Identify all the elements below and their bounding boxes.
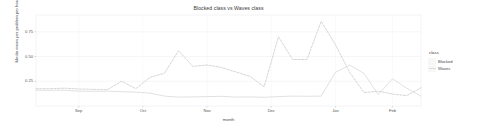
chart-container: Blocked class vs Waves class Media error… [0, 0, 482, 128]
legend-label: Blocked [438, 59, 453, 64]
x-tick-label: Feb [377, 109, 407, 113]
x-tick-label: Sep [64, 109, 94, 113]
plot-panel [36, 15, 421, 106]
x-tick-label: Oct [128, 109, 158, 113]
legend-label: Waves [438, 66, 450, 71]
legend-item-blocked[interactable]: Blocked [428, 58, 480, 65]
y-tick-label: 0.50 [25, 55, 33, 59]
legend-title: class [429, 50, 480, 55]
x-tick-label: Dec [256, 109, 286, 113]
legend-item-waves[interactable]: Waves [428, 65, 480, 72]
legend-swatch-icon [428, 58, 436, 65]
y-tick-label: 0.25 [25, 79, 33, 83]
x-tick-label: Jan [320, 109, 350, 113]
y-tick-label: 0.75 [25, 30, 33, 34]
legend-swatch-icon [428, 65, 436, 72]
legend: class BlockedWaves [428, 50, 480, 72]
x-tick-label: Nov [192, 109, 222, 113]
